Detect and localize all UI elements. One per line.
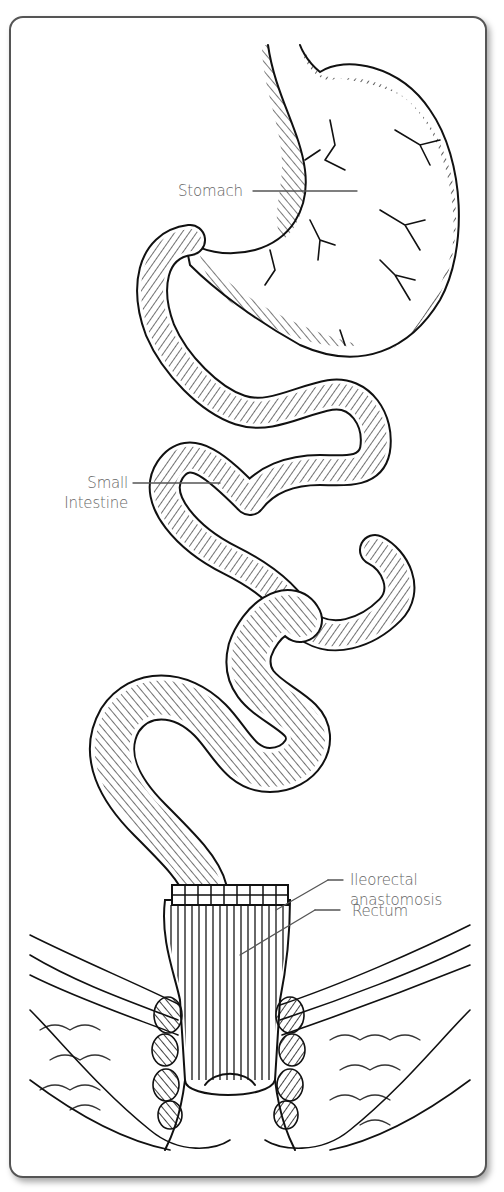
label-small-intestine-line1: Small xyxy=(76,473,128,493)
label-rectum: Rectum xyxy=(352,901,408,921)
label-small-intestine-line2: Intestine xyxy=(56,493,128,513)
label-stomach: Stomach xyxy=(178,181,243,201)
anatomy-illustration xyxy=(0,0,504,1192)
label-ileorectal-line1: Ileorectal xyxy=(350,870,418,890)
